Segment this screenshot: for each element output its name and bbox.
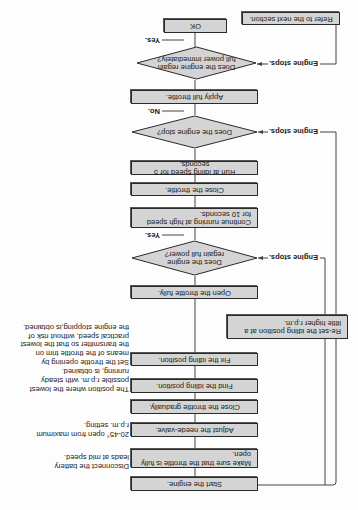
step-label: Find the idling position. [156, 382, 233, 391]
branch-engine-stops-1: Engine stops. [269, 253, 318, 262]
decision-label: Does the engine regain full power? [161, 250, 228, 267]
step-label: Apply full throttle. [166, 93, 224, 102]
decision-label: Does the engine regain full power immedi… [154, 55, 239, 72]
decision-engine-stop: Does the engine stop? [131, 115, 258, 149]
note-throttle-trim: Set the throttle opening by means of the… [21, 322, 129, 366]
step-refer-next-section: Refer to the next section. [242, 12, 340, 25]
step-label: Fix the idling position. [158, 355, 230, 364]
step-label: Make sure that the throttle is fully ope… [138, 450, 251, 467]
step-adjust-needle-valve: Adjust the neede-valve. [131, 423, 258, 437]
note-needle-valve: 20-45° open from maximum r.p.m. setting. [36, 420, 129, 438]
step-label: Re-set the idling position at a little h… [234, 319, 341, 336]
step-close-throttle-gradually: Close the throttle gradually. [131, 400, 258, 414]
step-make-sure-throttle-open: Make sure that the throttle is fully ope… [131, 449, 258, 468]
step-label: Continue running at high speed for 10 se… [138, 210, 251, 227]
step-label: Adjust the neede-valve. [155, 426, 233, 435]
step-apply-full-throttle: Apply full throttle. [131, 90, 258, 104]
step-ok: OK [164, 19, 227, 33]
step-label: Close the throttle. [165, 185, 224, 194]
branch-engine-stops-2: Engine stops. [269, 127, 318, 136]
step-run-idling-speed: Run at idling speed for 5 seconds. [131, 161, 258, 175]
branch-engine-stops-3: Engine stops. [269, 59, 318, 68]
step-start-engine: Start the engine. [131, 477, 258, 491]
step-label: Open the throttle fully. [158, 288, 231, 297]
branch-yes-3: Yes. [145, 36, 160, 45]
decision-regain-immediately: Does the engine regain full power immedi… [136, 46, 257, 80]
step-label: Refer to the next section. [249, 14, 332, 23]
note-battery: Disconnect the battery leads at mid spee… [54, 452, 129, 470]
step-open-throttle-fully: Open the throttle fully. [131, 286, 258, 299]
step-find-idling-position: Find the idling position. [131, 379, 258, 393]
decision-regain-full-power: Does the engine regain full power? [131, 240, 258, 276]
note-idling-position: The position where the lowest possible r… [30, 367, 129, 393]
branch-yes-1: Yes. [145, 231, 160, 240]
flowchart-canvas: Start the engine. Make sure that the thr… [0, 0, 358, 510]
branch-no-2: No. [148, 107, 160, 116]
step-reset-idling-position: Re-set the idling position at a little h… [227, 315, 348, 339]
step-close-throttle: Close the throttle. [131, 183, 258, 196]
step-fix-idling-position: Fix the idling position. [131, 353, 258, 366]
step-continue-high-speed: Continue running at high speed for 10 se… [131, 208, 258, 228]
step-label: Run at idling speed for 5 seconds. [138, 160, 251, 177]
step-label: OK [190, 22, 201, 31]
step-label: Start the engine. [167, 480, 222, 489]
step-label: Close the throttle gradually. [149, 403, 240, 412]
decision-label: Does the engine stop? [157, 128, 232, 137]
